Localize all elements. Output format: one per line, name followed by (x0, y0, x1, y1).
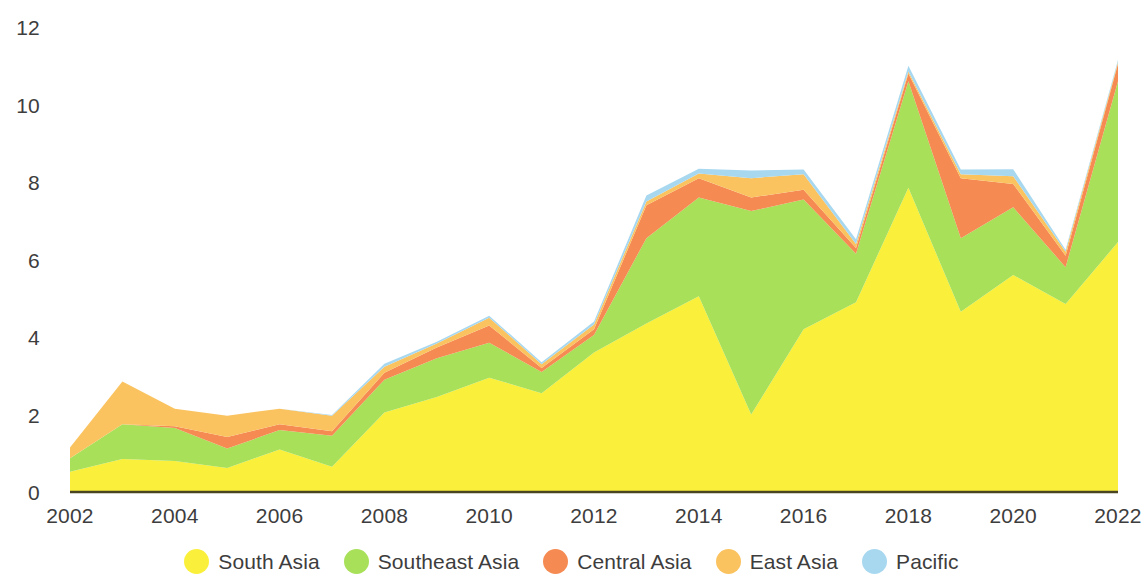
legend-label: Southeast Asia (378, 550, 520, 574)
legend-swatch-icon (716, 549, 741, 574)
legend-item-south-asia[interactable]: South Asia (184, 549, 319, 574)
x-tick-label: 2010 (465, 504, 513, 527)
x-tick-label: 2018 (885, 504, 933, 527)
y-tick-label: 6 (28, 249, 40, 272)
x-tick-label: 2016 (780, 504, 828, 527)
legend-swatch-icon (344, 549, 369, 574)
x-tick-label: 2002 (46, 504, 94, 527)
x-tick-label: 2012 (570, 504, 618, 527)
x-tick-label: 2006 (256, 504, 304, 527)
x-tick-label: 2004 (151, 504, 199, 527)
y-tick-label: 2 (28, 404, 40, 427)
x-axis-tick-labels: 2002200420062008201020122014201620182020… (46, 504, 1142, 527)
y-tick-label: 4 (28, 326, 40, 349)
legend-item-central-asia[interactable]: Central Asia (543, 549, 691, 574)
legend-swatch-icon (862, 549, 887, 574)
legend-item-east-asia[interactable]: East Asia (716, 549, 838, 574)
chart-plot-area: 024681012 200220042006200820102012201420… (0, 0, 1143, 545)
y-axis-tick-labels: 024681012 (16, 16, 40, 504)
legend-swatch-icon (543, 549, 568, 574)
stacked-area-chart: 024681012 200220042006200820102012201420… (0, 0, 1143, 587)
legend-item-pacific[interactable]: Pacific (862, 549, 959, 574)
y-tick-label: 12 (16, 16, 40, 39)
legend-swatch-icon (184, 549, 209, 574)
chart-legend: South AsiaSoutheast AsiaCentral AsiaEast… (0, 549, 1143, 574)
x-tick-label: 2014 (675, 504, 723, 527)
y-tick-label: 10 (16, 94, 40, 117)
legend-label: Pacific (896, 550, 959, 574)
x-tick-label: 2020 (989, 504, 1037, 527)
legend-label: South Asia (218, 550, 319, 574)
legend-label: Central Asia (577, 550, 691, 574)
legend-label: East Asia (750, 550, 838, 574)
y-tick-label: 8 (28, 171, 40, 194)
area-series-group (70, 60, 1118, 492)
y-tick-label: 0 (28, 481, 40, 504)
x-tick-label: 2022 (1094, 504, 1142, 527)
legend-item-southeast-asia[interactable]: Southeast Asia (344, 549, 520, 574)
x-tick-label: 2008 (361, 504, 409, 527)
